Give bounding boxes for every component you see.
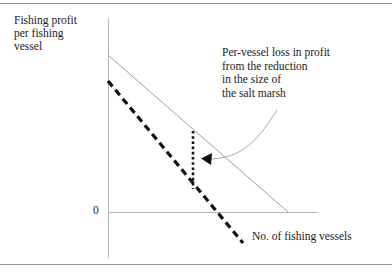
y-axis-label: Fishing profit per fishing vessel [14,14,77,54]
series-line-reduced [108,81,243,243]
origin-zero-label: 0 [93,204,99,217]
figure-container: Fishing profit per fishing vessel 0 No. … [0,0,392,272]
annotation-arrowhead-icon [201,153,212,165]
annotation-text: Per-vessel loss in profit from the reduc… [222,46,330,100]
annotation-leader-curve [210,110,277,159]
x-axis-label: No. of fishing vessels [252,230,352,243]
